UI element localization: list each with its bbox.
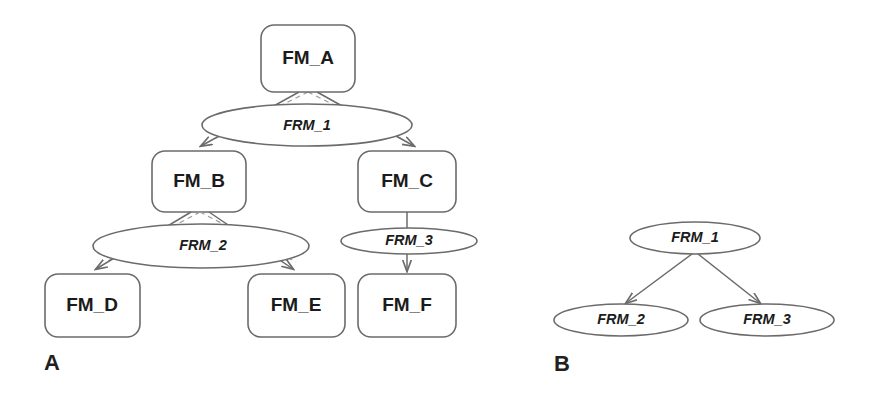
relation-node-frm-3-b[interactable]: FRM_3 xyxy=(700,304,834,336)
node-fm-a[interactable]: FM_A xyxy=(261,25,355,92)
node-label-fm-c: FM_C xyxy=(381,170,433,191)
node-label-fm-d: FM_D xyxy=(66,294,118,315)
node-fm-e[interactable]: FM_E xyxy=(248,274,345,337)
relation-label-frm-1: FRM_1 xyxy=(283,117,331,133)
relation-label-frm-2-b: FRM_2 xyxy=(597,311,645,327)
figure-root: FRM_1 FM_A FM_B FM_C xyxy=(0,0,872,401)
relation-label-frm-3: FRM_3 xyxy=(385,232,433,248)
node-fm-c[interactable]: FM_C xyxy=(358,151,456,212)
relation-node-frm-2-b[interactable]: FRM_2 xyxy=(554,304,688,336)
edge-frm-1-to-frm-2 xyxy=(626,254,692,303)
relation-node-frm-1[interactable]: FRM_1 xyxy=(202,104,412,146)
node-label-fm-a: FM_A xyxy=(282,47,334,68)
panel-label-b: B xyxy=(554,351,570,376)
edge-frm-1-to-frm-3 xyxy=(698,254,760,303)
node-label-fm-e: FM_E xyxy=(271,294,322,315)
node-fm-d[interactable]: FM_D xyxy=(45,274,140,337)
relation-node-frm-3[interactable]: FRM_3 xyxy=(341,228,477,254)
relation-label-frm-3-b: FRM_3 xyxy=(743,311,791,327)
node-fm-f[interactable]: FM_F xyxy=(358,274,456,337)
relation-label-frm-2: FRM_2 xyxy=(179,237,227,253)
panel-label-a: A xyxy=(44,350,60,375)
relation-label-frm-1-b: FRM_1 xyxy=(671,229,719,245)
relation-node-frm-1-b[interactable]: FRM_1 xyxy=(630,222,760,254)
relation-node-frm-2[interactable]: FRM_2 xyxy=(93,224,309,268)
panel-b: FRM_1 FRM_2 FRM_3 B xyxy=(554,222,834,376)
node-fm-b[interactable]: FM_B xyxy=(152,151,246,212)
figure-canvas: FRM_1 FM_A FM_B FM_C xyxy=(0,0,872,401)
node-label-fm-f: FM_F xyxy=(382,294,432,315)
node-label-fm-b: FM_B xyxy=(173,170,225,191)
panel-a: FRM_1 FM_A FM_B FM_C xyxy=(44,25,477,375)
